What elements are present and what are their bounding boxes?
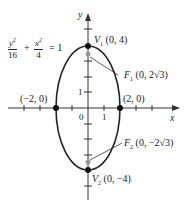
v1-sub: 1 xyxy=(100,41,103,47)
f2-radical: √3 xyxy=(160,137,171,148)
f2-point xyxy=(86,160,91,165)
f1-radical: √3 xyxy=(154,69,165,80)
eq-term1: y2 16 xyxy=(8,37,17,60)
v1-coords: (0, 4) xyxy=(106,34,128,45)
f2-sub: 2 xyxy=(130,144,133,150)
v2-point xyxy=(85,167,91,173)
f1-leader-line xyxy=(90,57,118,75)
y-axis-arrow-icon xyxy=(85,13,91,21)
x-tick-label-1: 1 xyxy=(102,113,107,122)
v2-coords: (0, −4) xyxy=(104,173,131,184)
y-axis-label: y xyxy=(78,10,82,20)
f1-coords-post: ) xyxy=(164,69,167,80)
v1-point xyxy=(85,43,91,49)
x-axis-arrow-icon xyxy=(172,105,180,111)
x-axis-label: x xyxy=(170,113,174,123)
f2-label: F2 (0, −2√3) xyxy=(124,138,173,150)
v1-label: V1 (0, 4) xyxy=(94,35,127,47)
f1-coords-pre: (0, 2 xyxy=(136,69,154,80)
eq-term1-den: 16 xyxy=(8,50,17,60)
eq-term2: x2 4 xyxy=(34,37,43,60)
f2-leader-line xyxy=(90,143,122,160)
ellipse-diagram: y2 16 + x2 4 = 1 y x 0 1 1 V1 (0, 4) F1 … xyxy=(0,0,191,208)
eq-term2-exp: 2 xyxy=(39,37,42,43)
y-tick-label-1: 1 xyxy=(78,88,83,97)
origin-label: 0 xyxy=(79,113,84,122)
eq-term1-exp: 2 xyxy=(13,37,16,43)
f1-point xyxy=(86,52,91,57)
right-covertex-point xyxy=(117,105,123,111)
f1-label: F1 (0, 2√3) xyxy=(124,70,168,82)
right-point-label: (2, 0) xyxy=(123,94,145,104)
left-point-label: (−2, 0) xyxy=(20,94,47,104)
f2-coords-pre: (0, −2 xyxy=(136,137,160,148)
eq-term2-den: 4 xyxy=(36,50,41,60)
v2-label: V2 (0, −4) xyxy=(92,174,131,186)
v2-sub: 2 xyxy=(98,180,101,186)
eq-plus: + xyxy=(24,43,30,53)
left-covertex-point xyxy=(53,105,59,111)
f2-coords-post: ) xyxy=(170,137,173,148)
f1-sub: 1 xyxy=(130,76,133,82)
eq-equals: = 1 xyxy=(49,43,62,53)
